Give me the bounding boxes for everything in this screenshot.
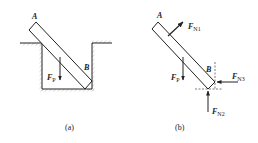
label-force-n2: FN2 [211, 107, 225, 117]
label-force-weight: FP [46, 73, 56, 83]
label-force-n1: FN1 [187, 22, 201, 32]
label-point-a: A [31, 12, 38, 21]
statics-diagram: A B FP (a) A B FN1 FP FN3 FN2 (b) [0, 0, 258, 143]
caption-a: (a) [65, 123, 74, 132]
figure-b: A B FN1 FP FN3 FN2 (b) [152, 11, 245, 132]
label-force-weight-b: FP [170, 73, 180, 83]
caption-b: (b) [175, 123, 185, 132]
label-point-a-b: A [156, 11, 163, 20]
label-point-b: B [83, 63, 90, 72]
label-force-n3: FN3 [231, 72, 245, 82]
figure-a: A B FP (a) [20, 12, 112, 132]
label-point-b-b: B [205, 65, 212, 74]
force-n1-arrow [168, 22, 183, 36]
